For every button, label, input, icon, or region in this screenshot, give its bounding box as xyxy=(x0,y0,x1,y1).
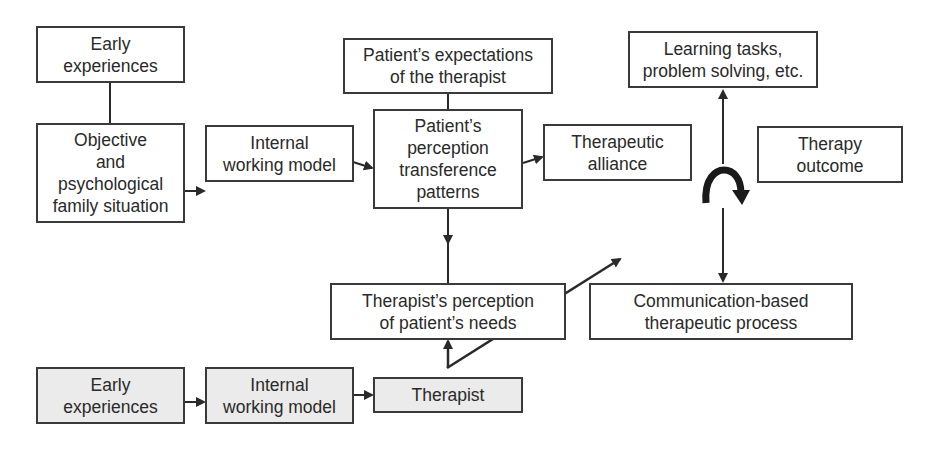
node-communication-process: Communication-based therapeutic process xyxy=(589,283,853,340)
node-label: Patient’s expectations of the therapist xyxy=(363,44,533,88)
node-internal-working-model-patient: Internal working model xyxy=(205,125,354,182)
node-family-situation: Objective and psychological family situa… xyxy=(36,123,185,223)
node-learning-tasks: Learning tasks, problem solving, etc. xyxy=(628,31,818,88)
node-label: Early experiences xyxy=(63,374,157,418)
node-label: Therapeutic alliance xyxy=(571,131,663,175)
node-label: Internal working model xyxy=(223,132,336,176)
node-patient-expectations: Patient’s expectations of the therapist xyxy=(343,38,553,94)
node-early-experiences-patient: Early experiences xyxy=(36,26,185,83)
arrow-perception-alliance xyxy=(523,157,542,163)
node-label: Patient’s perception transference patter… xyxy=(399,115,496,203)
node-therapist: Therapist xyxy=(373,377,523,413)
arrow-iwm-perception xyxy=(353,162,372,168)
node-therapist-perception: Therapist’s perception of patient’s need… xyxy=(330,283,566,340)
curved-arrow-icon xyxy=(706,170,750,205)
node-internal-working-model-therapist: Internal working model xyxy=(205,367,354,424)
node-therapy-outcome: Therapy outcome xyxy=(757,126,903,183)
node-label: Internal working model xyxy=(223,374,336,418)
node-patient-perception: Patient’s perception transference patter… xyxy=(373,109,523,209)
node-label: Early experiences xyxy=(63,33,157,77)
node-label: Communication-based therapeutic process xyxy=(633,290,808,334)
node-label: Therapist xyxy=(412,384,485,406)
node-label: Therapy outcome xyxy=(796,133,863,177)
node-label: Objective and psychological family situa… xyxy=(53,129,169,217)
node-early-experiences-therapist: Early experiences xyxy=(36,367,185,424)
node-therapeutic-alliance: Therapeutic alliance xyxy=(543,124,692,181)
node-label: Therapist’s perception of patient’s need… xyxy=(362,290,534,334)
node-label: Learning tasks, problem solving, etc. xyxy=(643,38,804,82)
